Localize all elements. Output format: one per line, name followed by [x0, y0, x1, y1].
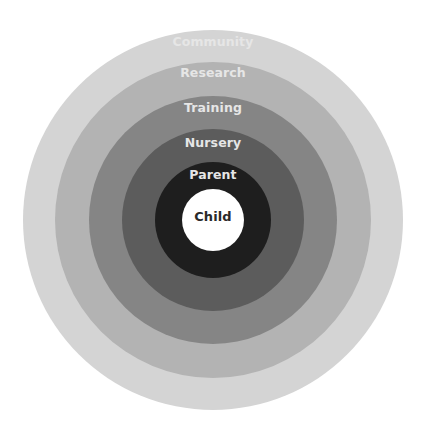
label-parent: Parent: [1, 167, 424, 182]
label-community: Community: [1, 34, 424, 49]
label-nursery: Nursery: [1, 135, 424, 150]
label-child: Child: [1, 209, 424, 224]
label-training: Training: [1, 100, 424, 115]
label-research: Research: [1, 65, 424, 80]
